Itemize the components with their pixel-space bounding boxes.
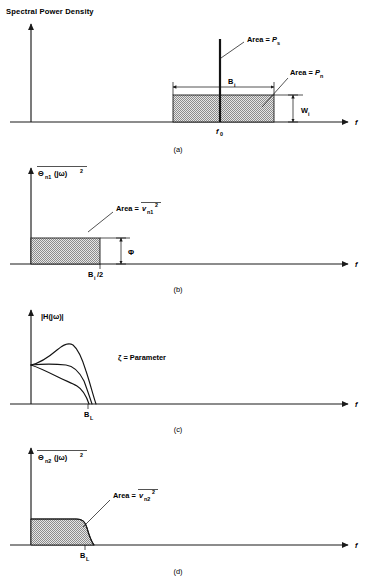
figure-title: Spectral Power Density [6, 7, 94, 16]
panel-d-y-label-arg: (jω) [54, 453, 68, 462]
panel-a-x-axis-label: f [355, 118, 359, 127]
panel-b-x-tick-label-rest: /2 [97, 270, 103, 279]
panel-b-x-axis-label: f [355, 260, 359, 269]
panel-d-area-leader [83, 500, 110, 527]
panel-d-area-value: v n2 2 [138, 489, 158, 502]
panel-a-area-pn-label: Area = [290, 68, 313, 77]
panel-a-bi-label: B [228, 77, 233, 86]
panel-c-parameter-label: ζ = Parameter [118, 353, 166, 362]
spectral-power-density-figure: Spectral Power Density f W i B i f 0 Are… [0, 0, 369, 582]
panel-d-y-label-sup: 2 [80, 452, 83, 458]
panel-b-y-label-sup: 2 [80, 168, 83, 174]
panel-b-area-label: Area = [116, 204, 139, 213]
panel-c-y-axis-label: |H(jω)| [41, 312, 64, 321]
panel-a-area-ps-label: Area = [247, 35, 270, 44]
panel-a-wi-label-sub: i [308, 111, 310, 117]
panel-b-x-tick-label-sub: i [94, 275, 96, 281]
panel-a-area-ps-symbol-sub: s [277, 40, 280, 46]
panel-a-f0-label-sub: 0 [220, 131, 223, 137]
panel-b-area-symbol-sub: n1 [147, 209, 153, 215]
panel-b-caption: (b) [173, 285, 182, 294]
panel-b-area-symbol-sup: 2 [155, 202, 158, 208]
panel-d-x-axis-label: f [355, 541, 359, 550]
panel-d-area-label: Area = [113, 491, 136, 500]
panel-d-x-tick-label: B [80, 551, 85, 560]
panel-b-y-axis-label: Θ n1 (jω) 2 [37, 167, 87, 180]
panel-a-area-pn-leader [262, 78, 288, 107]
panel-a-area-ps-leader [221, 42, 244, 58]
panel-c-curve-overdamped [31, 365, 89, 404]
panel-a-caption: (a) [173, 145, 182, 154]
panel-d-y-label-sub: n2 [45, 458, 51, 464]
panel-d-area-symbol-sup: 2 [152, 489, 155, 495]
panel-c-curve-critical [31, 364, 92, 404]
panel-c-curve-underdamped [31, 344, 96, 404]
panel-d-x-tick-label-sub: L [86, 556, 90, 562]
panel-d-area-symbol-sub: n2 [144, 496, 150, 502]
panel-b-y-label-sub: n1 [45, 174, 51, 180]
panel-b-y-label-symbol: Θ [38, 169, 44, 178]
panel-c-x-tick-label: B [84, 410, 89, 419]
panel-c-x-tick-label-sub: L [90, 415, 94, 421]
panel-b-noise-block [31, 238, 100, 264]
figure-container: Spectral Power Density f W i B i f 0 Are… [0, 0, 369, 582]
panel-a: f W i B i f 0 Area = P s Area = P n (a) [10, 24, 359, 154]
panel-d-y-label-symbol: Θ [38, 453, 44, 462]
panel-a-wi-label: W [301, 106, 308, 115]
panel-b-x-tick-label: B [88, 270, 93, 279]
panel-a-noise-block [173, 95, 274, 122]
panel-d-caption: (d) [173, 567, 182, 576]
panel-b: f Θ n1 (jω) 2 Φ B i /2 Area = v n1 2 [10, 167, 359, 295]
panel-b-y-label-arg: (jω) [54, 169, 68, 178]
panel-b-phi-label: Φ [128, 248, 134, 257]
panel-c-x-axis-label: f [355, 400, 359, 409]
panel-a-area-pn-symbol-sub: n [320, 73, 323, 79]
panel-d: f Θ n2 (jω) 2 Area = v n2 2 B L (d) [10, 448, 359, 576]
panel-d-y-axis-label: Θ n2 (jω) 2 [37, 451, 87, 464]
panel-b-area-value: v n1 2 [141, 202, 161, 215]
panel-c-caption: (c) [174, 425, 183, 434]
panel-c: f |H(jω)| ζ = Parameter B L (c) [10, 310, 359, 434]
panel-b-area-leader [88, 212, 113, 232]
